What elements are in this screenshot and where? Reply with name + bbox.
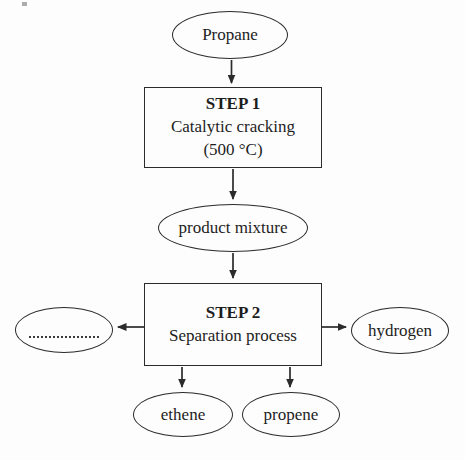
node-propene: propene	[242, 392, 340, 437]
node-step2-heading: STEP 2	[206, 302, 260, 325]
node-step1-line2: (500 °C)	[203, 139, 262, 162]
node-product-mixture: product mixture	[158, 204, 308, 252]
node-product-mixture-label: product mixture	[178, 218, 287, 238]
flowchart-diagram: Propane STEP 1 Catalytic cracking (500 °…	[0, 0, 465, 460]
node-step2: STEP 2 Separation process	[144, 283, 322, 366]
node-propene-label: propene	[264, 405, 319, 425]
node-propane: Propane	[172, 11, 288, 59]
node-ethene-label: ethene	[161, 405, 205, 425]
node-step1-heading: STEP 1	[206, 93, 260, 116]
node-answer-blank	[15, 307, 113, 353]
node-step1: STEP 1 Catalytic cracking (500 °C)	[144, 87, 322, 168]
node-step2-line1: Separation process	[169, 325, 297, 348]
node-hydrogen: hydrogen	[351, 307, 449, 354]
node-hydrogen-label: hydrogen	[368, 321, 432, 341]
node-step1-line1: Catalytic cracking	[171, 116, 295, 139]
dotted-answer-line	[29, 336, 99, 338]
node-propane-label: Propane	[202, 25, 258, 45]
node-ethene: ethene	[133, 392, 233, 437]
